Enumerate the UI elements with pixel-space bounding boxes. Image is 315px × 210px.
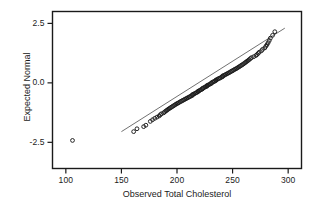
- x-tick-label: 100: [46, 175, 86, 185]
- x-axis-ticks: [66, 169, 288, 174]
- plot-border: [53, 12, 302, 169]
- plot-frame: [53, 12, 302, 169]
- x-axis-title: Observed Total Cholesterol: [52, 189, 302, 199]
- y-axis-ticks: [48, 23, 53, 142]
- x-tick-label: 250: [213, 175, 253, 185]
- y-axis-title: Expected Normal: [22, 22, 32, 152]
- qq-plot-figure: 100150200250300 2.50.0-2.5 Observed Tota…: [0, 0, 315, 210]
- x-tick-label: 200: [157, 175, 197, 185]
- x-tick-label: 150: [101, 175, 141, 185]
- x-tick-label: 300: [268, 175, 308, 185]
